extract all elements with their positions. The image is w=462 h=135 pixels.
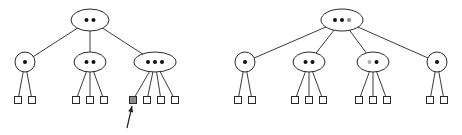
before-child-1-key-0 — [85, 60, 89, 64]
after-child-node-1 — [293, 52, 325, 72]
after-child-0-key-0 — [243, 60, 247, 64]
before-child-2-key-1 — [153, 60, 157, 64]
after-leaf-2-1 — [370, 97, 377, 104]
after-child-1-key-1 — [311, 60, 315, 64]
after-root-key-1 — [340, 18, 344, 22]
before-child-node-1 — [74, 52, 106, 72]
before-child-0-key-0 — [23, 60, 27, 64]
before-root-key-1 — [92, 18, 96, 22]
after-leaf-3-0 — [427, 97, 434, 104]
after-leaf-3-1 — [441, 97, 448, 104]
after-child-1-key-0 — [304, 60, 308, 64]
before-shaded-leaf-2-0 — [130, 97, 137, 104]
before-leaf-1-0 — [73, 97, 80, 104]
before-leaf-1-2 — [101, 97, 108, 104]
tree-diagram — [0, 0, 462, 135]
after-child-2-key-0 — [368, 60, 372, 64]
after-leaf-1-2 — [320, 97, 327, 104]
before-child-2-key-0 — [146, 60, 150, 64]
before-leaf-2-1 — [144, 97, 151, 104]
before-child-2-key-2 — [160, 60, 164, 64]
before-leaf-2-3 — [172, 97, 179, 104]
after-leaf-0-1 — [249, 97, 256, 104]
before-leaf-0-0 — [15, 97, 22, 104]
before-leaf-1-1 — [87, 97, 94, 104]
after-child-3-key-0 — [435, 60, 439, 64]
before-root-key-0 — [85, 18, 89, 22]
after-leaf-2-0 — [356, 97, 363, 104]
after-root-key-2 — [347, 18, 351, 22]
before-leaf-2-2 — [158, 97, 165, 104]
before-child-1-key-1 — [92, 60, 96, 64]
after-root-key-0 — [333, 18, 337, 22]
after-leaf-1-0 — [292, 97, 299, 104]
after-leaf-0-0 — [235, 97, 242, 104]
before-leaf-0-1 — [29, 97, 36, 104]
after-leaf-2-2 — [384, 97, 391, 104]
after-child-node-2 — [357, 52, 389, 72]
before-root-node — [71, 9, 109, 31]
after-child-2-key-1 — [375, 60, 379, 64]
tree-diagram-canvas — [0, 0, 462, 135]
after-leaf-1-1 — [306, 97, 313, 104]
